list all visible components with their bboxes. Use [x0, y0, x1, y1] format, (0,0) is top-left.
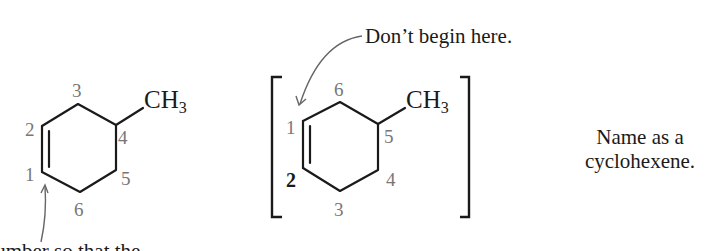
- left-locant-4: 4: [118, 127, 128, 148]
- left-bracket: [272, 77, 282, 217]
- left-arrow-shaft: [41, 186, 46, 242]
- left-methyl-label: CH3: [144, 86, 187, 116]
- naming-note-line-2: cyclohexene.: [570, 149, 709, 173]
- naming-note-line-1: Name as a: [570, 125, 709, 149]
- right-methyl-bond: [378, 108, 405, 124]
- right-locant-3: 3: [334, 199, 344, 220]
- right-bracket: [460, 77, 469, 217]
- left-locant-6: 6: [74, 199, 84, 220]
- right-arrow-shaft: [300, 36, 362, 104]
- left-methyl-bond: [116, 108, 143, 125]
- right-locant-5: 5: [384, 126, 394, 147]
- left-locant-3: 3: [72, 80, 82, 101]
- right-structure: CH3 1 2 3 4 5 6 Don’t begin here.: [272, 24, 512, 220]
- left-locant-2: 2: [25, 119, 35, 140]
- left-locant-5: 5: [121, 168, 131, 189]
- right-locant-1: 1: [286, 117, 296, 138]
- naming-note: Name as a cyclohexene.: [570, 125, 709, 173]
- left-locant-1: 1: [25, 164, 35, 185]
- right-locant-2-bold: 2: [286, 169, 296, 191]
- right-locant-4: 4: [386, 169, 396, 190]
- left-structure: CH3 1 2 3 4 5 6 Number so that the: [0, 80, 187, 251]
- right-methyl-label: CH3: [406, 86, 449, 116]
- right-arrow-caption: Don’t begin here.: [365, 24, 512, 48]
- right-locant-6: 6: [334, 79, 344, 100]
- right-ring-bonds: [303, 102, 378, 191]
- left-arrow-caption: Number so that the: [0, 239, 140, 251]
- left-ring-bonds: [42, 104, 116, 192]
